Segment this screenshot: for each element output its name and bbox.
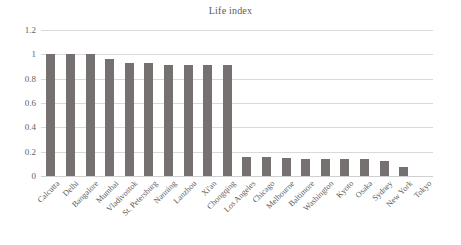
y-tick-label: 1.2 <box>0 26 36 35</box>
bar[interactable] <box>66 54 75 176</box>
y-tick-label: 0.2 <box>0 148 36 157</box>
chart-title: Life index <box>0 5 461 16</box>
bar[interactable] <box>242 157 251 176</box>
y-tick-label: 0 <box>0 172 36 181</box>
x-axis: CalcuttaDelhiBangaloreMumbaiVladivostokS… <box>41 176 433 245</box>
bar[interactable] <box>399 167 408 176</box>
bar[interactable] <box>321 159 330 176</box>
y-tick-label: 1 <box>0 50 36 59</box>
x-tick-label: Kyoto <box>334 179 355 200</box>
bar[interactable] <box>46 54 55 176</box>
x-tick-label-text: Kyoto <box>334 179 355 200</box>
x-tick-label: Tokyo <box>412 179 433 200</box>
gridline-0.8 <box>41 79 433 80</box>
bar[interactable] <box>203 65 212 176</box>
bar[interactable] <box>164 65 173 176</box>
gridline-1.2 <box>41 30 433 31</box>
bar[interactable] <box>301 159 310 176</box>
bar[interactable] <box>262 157 271 176</box>
gridline-0.2 <box>41 152 433 153</box>
bar[interactable] <box>144 63 153 176</box>
bar[interactable] <box>125 63 134 176</box>
y-tick-label: 0.6 <box>0 99 36 108</box>
y-tick-label: 0.4 <box>0 123 36 132</box>
bar[interactable] <box>340 159 349 176</box>
gridline-1 <box>41 54 433 55</box>
y-axis: 00.20.40.60.811.2 <box>0 30 36 176</box>
bar[interactable] <box>360 159 369 176</box>
bar[interactable] <box>86 54 95 176</box>
x-tick-label: Calcutta <box>36 179 62 205</box>
x-tick-label-text: Calcutta <box>36 179 62 205</box>
life-index-bar-chart: Life index 00.20.40.60.811.2 CalcuttaDel… <box>0 0 461 245</box>
bar[interactable] <box>184 65 193 176</box>
gridline-0.4 <box>41 127 433 128</box>
x-tick-label-text: Tokyo <box>412 179 433 200</box>
plot-area <box>41 30 433 176</box>
bar[interactable] <box>380 161 389 176</box>
bar[interactable] <box>223 65 232 176</box>
y-tick-label: 0.8 <box>0 75 36 84</box>
bar[interactable] <box>105 59 114 176</box>
gridline-0.6 <box>41 103 433 104</box>
bar[interactable] <box>282 158 291 176</box>
